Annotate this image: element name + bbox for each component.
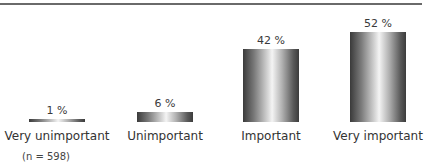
top-rule	[0, 3, 422, 5]
category-label: Very important	[318, 129, 428, 143]
value-label: 6 %	[125, 97, 205, 110]
value-label: 1 %	[17, 104, 97, 117]
category-label: Unimportant	[105, 129, 225, 143]
value-label: 52 %	[338, 17, 418, 30]
value-label: 42 %	[231, 34, 311, 47]
bar-important	[243, 49, 299, 122]
bar-unimportant	[137, 112, 193, 122]
category-label: Important	[211, 129, 331, 143]
bar-very-unimportant	[29, 119, 85, 122]
category-label: Very unimportant	[0, 129, 117, 143]
sample-size-note: (n = 598)	[22, 151, 70, 162]
bar-very-important	[350, 32, 406, 122]
